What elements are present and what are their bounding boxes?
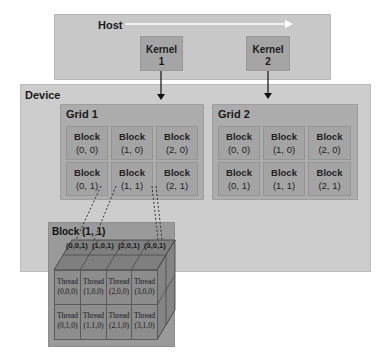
thread-cell: Thread(0,0,0) [54, 270, 81, 305]
thread-top-label: (3,0,1) [144, 241, 166, 250]
thread-top-label: (2,0,1) [118, 241, 140, 250]
thread-cell: Thread(2,1,0) [106, 304, 132, 340]
thread-top-label: (0,0,1) [66, 241, 88, 250]
thread-cell: Thread(3,1,0) [131, 304, 158, 340]
thread-cell: Thread(1,1,0) [80, 304, 107, 340]
thread-cell: Thread(1,0,0) [80, 270, 107, 305]
thread-cell: Thread(0,1,0) [54, 304, 81, 340]
thread-top-label: (1,0,1) [92, 241, 114, 250]
thread-cell: Thread(3,0,0) [131, 270, 158, 305]
thread-cell: Thread(2,0,0) [106, 270, 132, 305]
